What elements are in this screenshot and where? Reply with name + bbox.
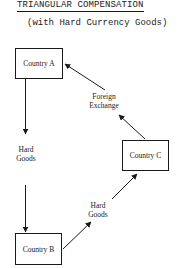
edge-c-a-label-line1: Foreign <box>92 92 116 101</box>
arrow-c-to-label <box>119 115 145 139</box>
arrow-label-to-a <box>65 64 105 90</box>
edge-a-b-label-line1: Hard <box>19 145 34 154</box>
arrow-label-to-c <box>112 174 137 199</box>
country-c-label: Country C <box>130 151 161 160</box>
node-country-a: Country A <box>16 49 63 79</box>
edge-b-c-label-line2: Goods <box>88 210 108 219</box>
edge-b-c-label-line1: Hard <box>91 201 106 210</box>
edge-c-a-label-line2: Exchange <box>89 101 119 110</box>
arrow-b-to-label <box>63 222 91 249</box>
edge-b-to-c: Hard Goods <box>63 174 137 249</box>
edge-c-to-a: Foreign Exchange <box>65 64 145 139</box>
node-country-c: Country C <box>123 141 169 171</box>
country-b-label: Country B <box>23 245 54 254</box>
edge-a-to-b: Hard Goods <box>16 79 36 232</box>
country-a-label: Country A <box>23 59 55 68</box>
flow-diagram: Country A Country C Country B Hard Goods… <box>0 0 188 268</box>
node-country-b: Country B <box>16 234 62 265</box>
edge-a-b-label-line2: Goods <box>16 154 36 163</box>
